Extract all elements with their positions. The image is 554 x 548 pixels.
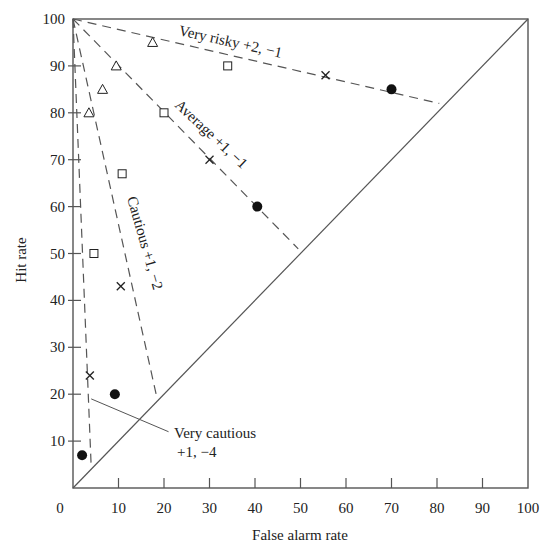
square-marker [90, 250, 98, 258]
cross-marker [322, 71, 330, 79]
label-very-cautious-2: +1, −4 [177, 444, 217, 460]
cross-marker [86, 371, 94, 379]
dot-marker [387, 84, 397, 94]
y-tick-label: 70 [50, 152, 65, 168]
dot-marker [77, 450, 87, 460]
criterion-lines [73, 19, 439, 467]
y-tick-label: 50 [50, 246, 65, 262]
triangle-marker [111, 61, 121, 70]
triangle-marker [148, 37, 158, 46]
cross-marker [206, 156, 214, 164]
y-tick-label: 100 [43, 11, 66, 27]
y-tick-label: 20 [50, 386, 65, 402]
x-axis-title: False alarm rate [252, 527, 348, 543]
y-tick-label: 90 [50, 58, 65, 74]
y-axis-title: Hit rate [13, 237, 29, 283]
x-tick-label: 10 [111, 500, 126, 516]
x-tick-label: 70 [384, 500, 399, 516]
annotation-leader-line [91, 399, 168, 432]
roc-chart: 1020304050607080901000102030405060708090… [0, 0, 554, 548]
dot-marker [110, 389, 120, 399]
x-tick-label: 90 [475, 500, 490, 516]
square-marker [224, 62, 232, 70]
criterion-line-very-risky [73, 19, 439, 103]
square-marker [118, 170, 126, 178]
x-tick-label: 60 [339, 500, 354, 516]
x-tick-label: 50 [293, 500, 308, 516]
label-very-risky: Very risky +2, −1 [177, 22, 283, 60]
label-cautious: Cautious +1, −2 [124, 194, 166, 291]
dot-marker [252, 202, 262, 212]
y-tick-label: 60 [50, 199, 65, 215]
x-tick-label: 20 [157, 500, 172, 516]
y-tick-label: 40 [50, 292, 65, 308]
triangle-marker [98, 84, 108, 93]
x-tick-label: 80 [430, 500, 445, 516]
y-tick-label: 80 [50, 105, 65, 121]
data-markers [77, 37, 396, 460]
label-very-cautious-1: Very cautious [174, 425, 256, 441]
y-tick-label: 30 [50, 339, 65, 355]
cross-marker [117, 282, 125, 290]
square-marker [160, 109, 168, 117]
x-tick-label: 100 [517, 500, 540, 516]
x-tick-label: 30 [202, 500, 217, 516]
origin-label: 0 [56, 500, 64, 516]
x-tick-label: 40 [248, 500, 263, 516]
y-tick-label: 10 [50, 433, 65, 449]
